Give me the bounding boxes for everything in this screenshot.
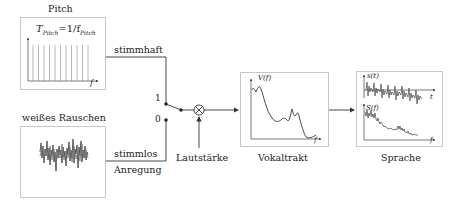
diagram-lines	[0, 0, 458, 208]
multiplier-icon	[194, 105, 204, 115]
unvoiced-path	[106, 121, 166, 161]
voiced-path	[106, 57, 166, 103]
speech-time-plot	[364, 75, 435, 104]
vocal-tract-plot	[251, 79, 321, 139]
speech-spectrum-plot	[364, 104, 435, 140]
switch-icon	[164, 102, 194, 122]
pitch-plot	[28, 38, 98, 81]
noise-waveform	[40, 139, 88, 171]
